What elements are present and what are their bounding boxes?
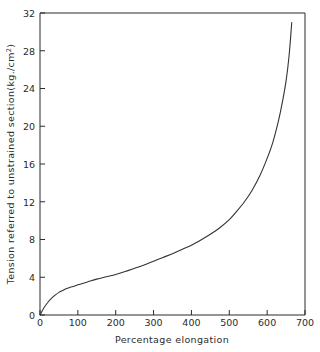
x-tick-label-500: 500 [220, 317, 238, 328]
y-tick-label-28: 28 [23, 46, 35, 57]
y-tick-label-12: 12 [23, 197, 35, 208]
x-tick-label-100: 100 [69, 317, 87, 328]
chart-background [0, 0, 320, 352]
chart-figure: 0 4 8 12 16 20 24 28 32 0 100 200 300 [0, 0, 320, 352]
y-tick-label-20: 20 [23, 121, 35, 132]
y-axis-title-main: Tension referred to unstrained section [5, 91, 16, 286]
stress-strain-chart: 0 4 8 12 16 20 24 28 32 0 100 200 300 [0, 0, 320, 352]
x-tick-label-0: 0 [37, 317, 43, 328]
y-axis-title-units-suffix: ) [5, 44, 16, 48]
y-tick-label-32: 32 [23, 8, 35, 19]
x-axis-title: Percentage elongation [115, 334, 229, 345]
y-tick-label-16: 16 [23, 159, 35, 170]
x-tick-label-300: 300 [145, 317, 163, 328]
y-axis-title: Tension referred to unstrained section(k… [5, 44, 16, 286]
y-axis-title-units-prefix: (kg./cm [5, 52, 16, 90]
x-tick-label-200: 200 [107, 317, 125, 328]
x-tick-label-700: 700 [296, 317, 314, 328]
y-tick-label-8: 8 [29, 234, 35, 245]
y-tick-label-24: 24 [23, 83, 35, 94]
x-tick-label-400: 400 [182, 317, 200, 328]
y-tick-label-0: 0 [29, 310, 35, 321]
y-tick-label-4: 4 [29, 272, 35, 283]
x-tick-label-600: 600 [258, 317, 276, 328]
